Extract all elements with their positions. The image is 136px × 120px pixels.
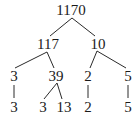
tree-edge: [72, 18, 95, 36]
tree-edge: [57, 83, 62, 99]
tree-edge: [90, 51, 97, 68]
tree-edge: [44, 83, 57, 99]
tree-node: 5: [124, 69, 132, 84]
tree-node: 39: [49, 69, 64, 84]
tree-edge: [50, 18, 72, 36]
factor-tree-diagram: 11701171033925331325: [0, 0, 136, 120]
tree-node: 1170: [56, 3, 85, 18]
tree-node: 117: [37, 37, 59, 52]
tree-edge: [47, 52, 54, 68]
tree-node: 2: [84, 69, 92, 84]
tree-node: 2: [84, 100, 92, 115]
tree-node: 5: [124, 100, 132, 115]
tree-node: 3: [39, 100, 47, 115]
tree-node: 3: [10, 100, 18, 115]
tree-edge: [15, 52, 47, 68]
tree-node: 13: [57, 100, 72, 115]
tree-edge: [97, 51, 126, 68]
tree-node: 10: [91, 37, 106, 52]
tree-node: 3: [10, 69, 18, 84]
